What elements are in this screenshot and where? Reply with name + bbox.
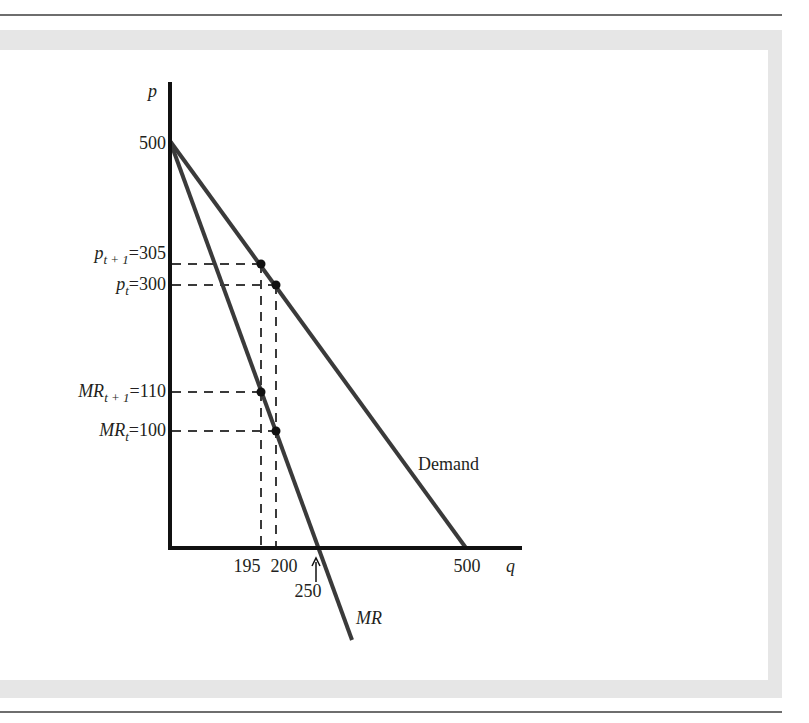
mr-label: MR xyxy=(355,608,382,628)
y-tick-110: MRt + 1=110 xyxy=(77,381,166,405)
x-tick-500: 500 xyxy=(454,556,481,576)
point-demand-t xyxy=(272,281,281,290)
x-tick-200: 200 xyxy=(271,556,298,576)
x-tick-195: 195 xyxy=(234,556,261,576)
x-tick-250: 250 xyxy=(295,581,322,601)
y-tick-100: MRt=100 xyxy=(98,420,166,444)
y-axis-label: p xyxy=(146,81,157,101)
point-mr-t1 xyxy=(257,388,266,397)
dashed-guides xyxy=(172,264,276,548)
point-demand-t1 xyxy=(257,260,266,269)
demand-curve xyxy=(170,141,466,548)
x-axis-label: q xyxy=(506,556,515,576)
y-tick-305: pt + 1=305 xyxy=(92,243,166,267)
y-tick-300: pt=300 xyxy=(114,274,166,298)
monopoly-diagram: p q 500 pt + 1=305 pt=300 MRt + 1=110 MR… xyxy=(0,0,809,723)
point-mr-t xyxy=(272,427,281,436)
y-tick-500: 500 xyxy=(139,133,166,153)
demand-label: Demand xyxy=(418,454,479,474)
